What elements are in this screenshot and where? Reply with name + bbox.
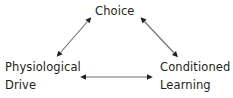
node-label-conditioned-learning: Conditioned Learning [160,58,230,94]
diagram-canvas: Choice Physiological Drive Conditioned L… [0,0,233,98]
node-label-physiological-drive: Physiological Drive [5,58,81,94]
node-label-choice-line-1: Choice [95,2,135,20]
node-label-physiological-drive-line-2: Drive [5,76,81,94]
node-label-conditioned-learning-line-1: Conditioned [160,58,230,76]
connector-choice-to-conditioned-learning [145,22,175,54]
connector-physiological-drive-to-choice [61,22,88,53]
node-label-conditioned-learning-line-2: Learning [160,76,230,94]
node-label-physiological-drive-line-1: Physiological [5,58,81,76]
node-label-choice: Choice [95,2,135,20]
